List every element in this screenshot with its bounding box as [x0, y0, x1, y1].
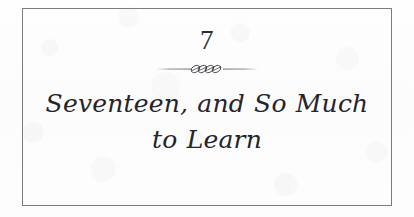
chapter-title-page: 7	[0, 0, 414, 217]
chapter-number: 7	[200, 27, 214, 54]
page-frame-content: 7	[23, 9, 391, 205]
chapter-title-line-1: Seventeen, and So Much	[42, 86, 372, 122]
chapter-title: Seventeen, and So Much to Learn	[42, 86, 372, 157]
page-frame-border: 7	[22, 8, 392, 206]
twisted-rope-rule-ornament	[157, 63, 257, 75]
chapter-title-line-2: to Learn	[42, 122, 372, 158]
